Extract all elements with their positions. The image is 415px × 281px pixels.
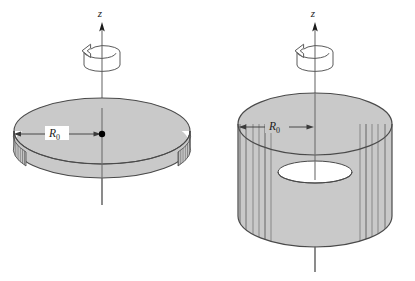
figure-container: z (0, 0, 415, 281)
radius-label-subscript: 0 (56, 133, 60, 142)
radius-label-subscript-right: 0 (276, 126, 280, 135)
radius-label-base: R (48, 127, 56, 139)
radius-label-base-right: R (268, 120, 276, 132)
z-axis-label: z (97, 7, 103, 19)
center-point-marker (99, 131, 105, 137)
physics-diagram: z (0, 0, 415, 281)
z-axis-label-right: z (310, 7, 316, 19)
